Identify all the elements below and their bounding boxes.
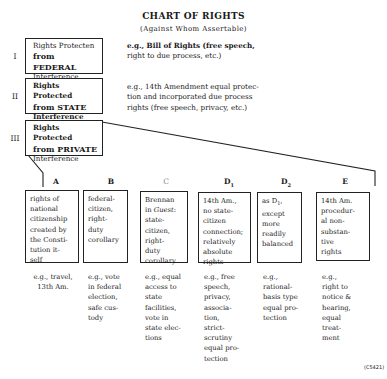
column-header-d1: D1	[214, 177, 244, 188]
column-header-e: E	[330, 177, 360, 186]
example-line: e.g., 14th Amendment equal protec-	[127, 82, 259, 92]
level-numeral-i: I	[7, 52, 23, 61]
level-numeral-ii: II	[7, 92, 23, 101]
box-text: as D	[262, 197, 277, 205]
column-header-b: B	[96, 177, 126, 186]
example-line: rights (free speech, privacy, etc.)	[127, 103, 259, 113]
level-label-line: from PRIVATE	[33, 144, 98, 154]
column-example-c: e.g., equal access to state facilities, …	[145, 272, 181, 343]
level-example-state: e.g., 14th Amendment equal protec- tion …	[127, 82, 259, 113]
level-label-line: Rights Protected	[33, 123, 98, 144]
box-text: : state- citizen, right- duty corollary	[145, 206, 176, 265]
column-box-c: Brennan in Guest: state- citizen, right-…	[140, 191, 188, 263]
level-label-line: Interference	[33, 154, 98, 164]
level-example-federal: e.g., Bill of Rights (free speech, right…	[127, 41, 255, 62]
column-box-d1: 14th Am., no state- citizen connection; …	[198, 192, 251, 263]
level-box-federal: Rights Protecten from FEDERAL Interferen…	[25, 38, 103, 74]
level-label-line: Rights Protecten	[33, 41, 98, 51]
column-header-a: A	[41, 177, 71, 186]
level-label-line: Rights Protected	[33, 81, 98, 102]
level-label-line: from STATE	[33, 102, 98, 112]
column-example-d1: e.g., free speech, privacy, associa- tio…	[204, 272, 239, 364]
level-numeral-iii: III	[7, 134, 23, 143]
header-subscript: 2	[288, 182, 291, 188]
column-example-a: e.g., travel, 13th Am.	[29, 272, 77, 292]
column-header-d2: D2	[271, 177, 301, 188]
reference-code: (C5421)	[364, 364, 384, 370]
column-example-b: e.g., vote in federal election, safe cus…	[88, 272, 121, 323]
column-example-d2: e.g., rational- basis type equal pro- te…	[263, 272, 298, 323]
column-header-c: C	[151, 177, 181, 186]
level-label-line: from FEDERAL	[33, 51, 98, 72]
level-box-private: Rights Protected from PRIVATE Interferen…	[25, 120, 103, 156]
column-example-e: e.g., right to notice & hearing, equal t…	[322, 272, 351, 343]
column-box-e: 14th Am. procedur- al non- substan- tive…	[316, 192, 370, 261]
column-box-d2: as D1, except more readily balanced	[257, 192, 302, 263]
example-line: tion and incorporated due process	[127, 92, 259, 102]
header-subscript: 1	[231, 182, 234, 188]
level-box-state: Rights Protected from STATE Interference	[25, 78, 103, 114]
example-line: e.g., Bill of Rights (free speech,	[127, 41, 255, 51]
column-box-a: rights of national citizenship created b…	[25, 190, 79, 263]
column-box-b: federal- citizen, right- duty corollary	[83, 190, 128, 263]
example-line: right to due process, etc.)	[127, 51, 255, 61]
case-name: Guest	[154, 206, 174, 214]
